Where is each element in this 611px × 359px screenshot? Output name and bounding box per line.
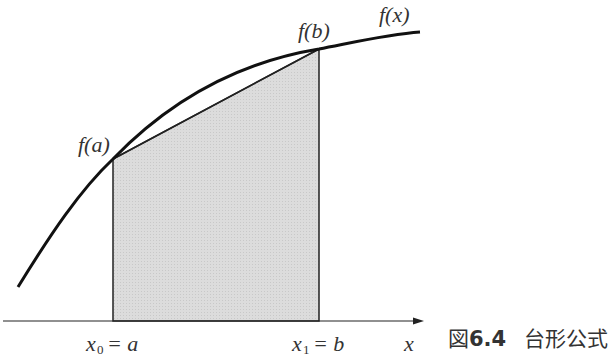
label-fa: f(a) — [78, 132, 110, 157]
label-x0-var: x — [85, 331, 96, 356]
label-x1-var: x — [291, 331, 302, 356]
caption-title: 台形公式 — [524, 327, 608, 351]
caption-number: 6.4 — [469, 327, 506, 351]
trapezoid-diagram: f(x) f(b) f(a) x 0 = a x 1 = b x — [0, 0, 611, 359]
caption-label: 図 — [448, 327, 469, 351]
label-x1-rhs: = b — [313, 331, 344, 356]
trapezoid-area — [113, 49, 319, 321]
x-axis-arrow-icon — [413, 318, 424, 325]
label-fb: f(b) — [298, 18, 330, 43]
figure-caption: 図6.4台形公式 — [448, 322, 608, 352]
label-x1-sub: 1 — [303, 342, 310, 357]
label-x0-rhs: = a — [107, 331, 138, 356]
label-axis-x: x — [403, 331, 414, 356]
label-x0-sub: 0 — [97, 342, 104, 357]
label-fx: f(x) — [379, 2, 410, 27]
